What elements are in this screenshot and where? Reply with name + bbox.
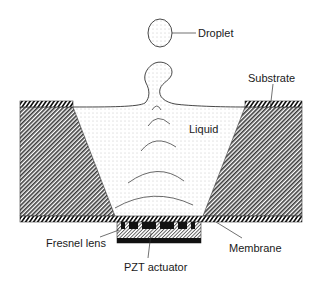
label-membrane: Membrane: [229, 242, 282, 254]
bottom-electrode: [117, 238, 201, 243]
label-liquid: Liquid: [189, 123, 218, 135]
leader-fresnel: [100, 230, 119, 237]
droplet-ejector-diagram: Droplet Substrate Liquid Fresnel lens Me…: [0, 0, 317, 287]
label-substrate: Substrate: [248, 72, 295, 84]
label-pzt-actuator: PZT actuator: [124, 261, 188, 273]
droplet: [148, 19, 172, 47]
leader-membrane: [216, 222, 242, 238]
label-fresnel-lens: Fresnel lens: [46, 237, 106, 249]
membrane-layer: [20, 216, 302, 222]
surface-layer-right: [245, 101, 302, 107]
surface-layer-left: [20, 101, 73, 107]
pzt-actuator: [117, 222, 201, 243]
label-droplet: Droplet: [198, 27, 233, 39]
